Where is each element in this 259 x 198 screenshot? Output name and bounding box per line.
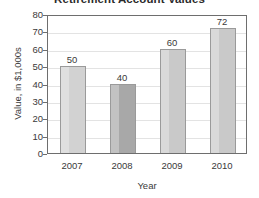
bar-value-label: 50 bbox=[52, 54, 92, 65]
bar-highlight bbox=[211, 29, 219, 153]
y-axis-tick-label: 70 bbox=[14, 27, 43, 37]
y-axis-tick-label: 0 bbox=[14, 149, 43, 159]
bar-value-label: 60 bbox=[152, 37, 192, 48]
bar-value-label: 40 bbox=[102, 72, 142, 83]
x-axis-tick-label: 2008 bbox=[97, 160, 147, 171]
bar bbox=[160, 49, 186, 153]
y-axis-tick bbox=[43, 154, 47, 155]
y-axis-tick-label: 80 bbox=[14, 10, 43, 20]
bar-chart: Retirement Account Values Value, in $1,0… bbox=[0, 0, 259, 198]
y-axis-tick-label: 10 bbox=[14, 132, 43, 142]
plot-area bbox=[47, 15, 247, 154]
bar bbox=[60, 66, 86, 153]
bar-highlight bbox=[111, 85, 119, 154]
bar-value-label: 72 bbox=[202, 16, 242, 27]
x-axis-tick-label: 2007 bbox=[47, 160, 97, 171]
y-axis-tick-label: 40 bbox=[14, 80, 43, 90]
bar bbox=[210, 28, 236, 153]
y-axis-tick-label: 50 bbox=[14, 62, 43, 72]
y-axis-tick-label: 20 bbox=[14, 114, 43, 124]
x-axis-tick-label: 2010 bbox=[197, 160, 247, 171]
y-axis-tick-label: 30 bbox=[14, 97, 43, 107]
bar bbox=[110, 84, 136, 154]
chart-title: Retirement Account Values bbox=[0, 0, 259, 5]
y-axis-tick-label: 60 bbox=[14, 45, 43, 55]
x-axis-tick-label: 2009 bbox=[147, 160, 197, 171]
x-axis-label: Year bbox=[47, 180, 247, 191]
bar-highlight bbox=[161, 50, 169, 153]
bar-highlight bbox=[61, 67, 69, 153]
